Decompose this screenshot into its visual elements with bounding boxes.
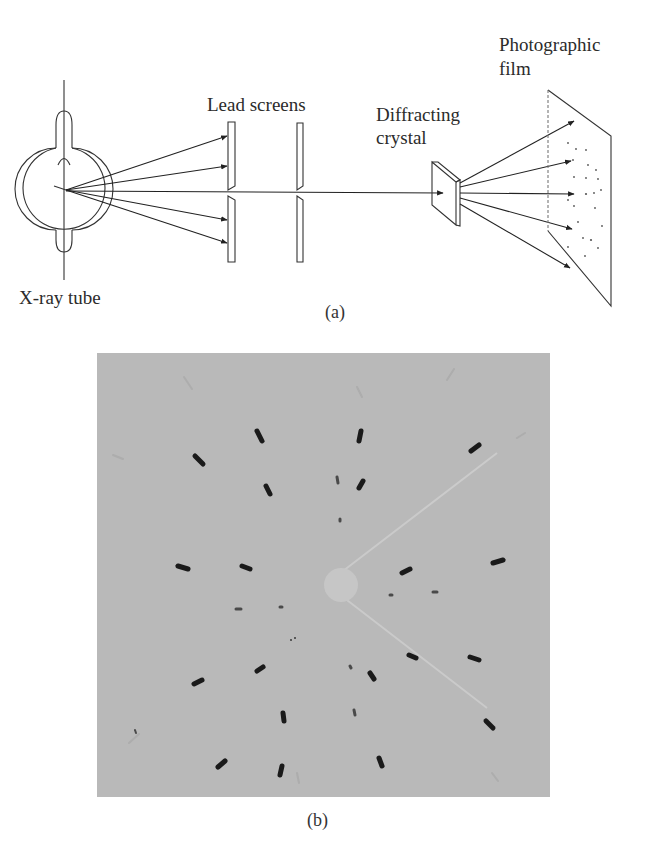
diffraction-spots [178, 431, 503, 775]
xray-tube-icon [15, 80, 113, 280]
beam-stop [324, 568, 358, 602]
figure-b-caption: (b) [307, 810, 328, 831]
photographic-film-label-line1: Photographic [499, 34, 600, 56]
photographic-film-icon [548, 90, 611, 306]
xray-tube-label: X-ray tube [19, 287, 101, 309]
laue-diffraction-photograph [97, 353, 550, 797]
photographic-film-label-line2: film [499, 58, 531, 80]
lead-screens-label: Lead screens [207, 94, 306, 116]
film-spots [567, 142, 603, 257]
diffracting-crystal-icon [432, 162, 460, 226]
diffracting-crystal-label-line1: Diffracting [376, 104, 460, 126]
beam-stop-holder [343, 453, 497, 708]
figure-a-caption: (a) [325, 302, 345, 323]
diffracting-crystal-label-line2: crystal [376, 127, 427, 149]
